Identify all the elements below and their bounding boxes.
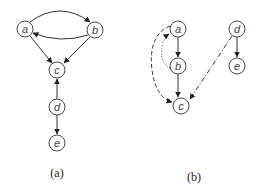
node-label: e <box>54 137 60 149</box>
node-label: a <box>22 23 28 35</box>
panel-b: a b c d e (b) <box>151 21 245 184</box>
caption-b: (b) <box>187 170 201 184</box>
node-label: c <box>178 100 184 112</box>
diagram-canvas: a b c d e (a) a b c d e (b) <box>0 0 258 185</box>
node-c: c <box>49 62 65 78</box>
node-label: d <box>54 101 61 113</box>
panel-a: a b c d e (a) <box>17 11 103 180</box>
node-c: c <box>173 98 189 114</box>
edge-b-c <box>64 37 90 63</box>
node-label: d <box>234 23 241 35</box>
edge-a-c <box>30 36 52 63</box>
node-e: e <box>49 135 65 151</box>
node-label: e <box>234 60 240 72</box>
node-label: b <box>92 24 98 36</box>
edge-a-b <box>30 11 90 22</box>
node-b: b <box>87 22 103 38</box>
edge-d-c-dashdot <box>190 36 232 99</box>
node-label: b <box>175 60 181 72</box>
node-d: d <box>49 99 65 115</box>
edge-b-a-dotted <box>162 34 170 68</box>
caption-a: (a) <box>50 166 63 180</box>
node-b: b <box>170 58 186 74</box>
node-a: a <box>17 21 33 37</box>
edge-b-a <box>33 33 88 39</box>
edge-a-c-dashed <box>151 26 172 102</box>
node-label: a <box>175 23 181 35</box>
node-e: e <box>229 58 245 74</box>
node-d: d <box>229 21 245 37</box>
node-a: a <box>170 21 186 37</box>
node-label: c <box>54 64 60 76</box>
